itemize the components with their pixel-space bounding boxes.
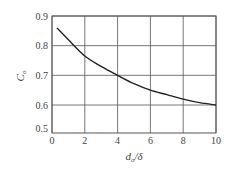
x-tick-label: 8 [181,135,186,146]
x-tick-label: 2 [82,135,87,146]
x-tick-label: 0 [50,135,55,146]
x-tick-labels: 0246810 [50,135,222,146]
y-tick-label: 0.9 [36,11,49,22]
x-tick-label: 10 [211,135,221,146]
x-axis-label: do/δ [125,150,143,164]
y-tick-label: 0.7 [36,70,49,81]
y-tick-label: 0.6 [36,100,49,111]
y-tick-labels: 0.90.80.70.60.5 [36,11,49,134]
grid-lines [52,16,216,133]
chart: 0.90.80.70.60.5 0246810 Co do/δ [0,0,232,173]
x-tick-label: 4 [115,135,120,146]
y-tick-label: 0.8 [36,40,49,51]
x-tick-label: 6 [148,135,153,146]
plot-frame [52,16,216,133]
y-tick-label: 0.5 [36,123,49,134]
y-axis-label: Co [14,70,28,81]
data-curve [57,28,216,105]
